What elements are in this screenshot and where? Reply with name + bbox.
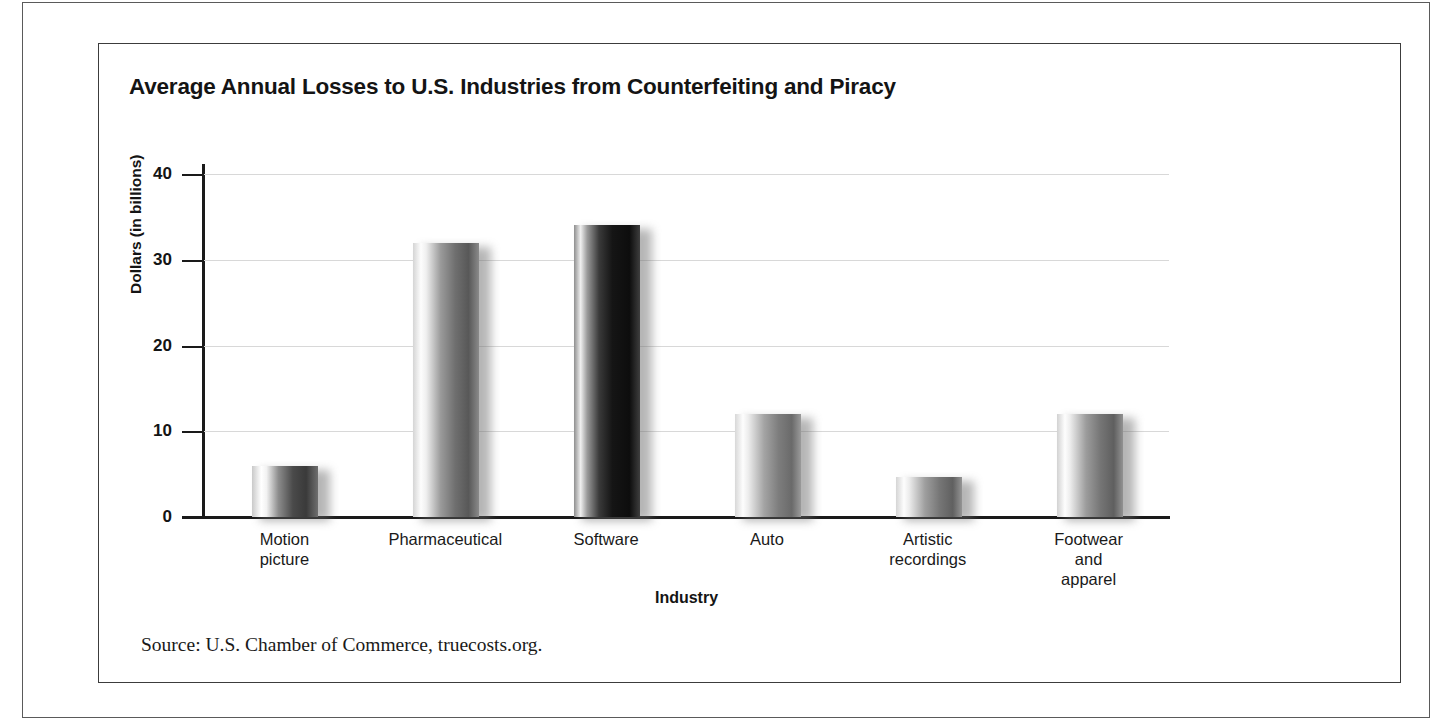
bar[interactable] [1057, 414, 1123, 517]
source-note: Source: U.S. Chamber of Commerce, trueco… [141, 634, 542, 656]
y-tick-mark [182, 260, 202, 262]
chart-title: Average Annual Losses to U.S. Industries… [129, 74, 896, 100]
gridline [204, 431, 1169, 432]
y-tick-label: 10 [153, 421, 172, 441]
bar[interactable] [413, 243, 479, 517]
y-axis-title: Dollars (in billions) [127, 154, 145, 294]
x-tick-label: Auto [750, 529, 784, 549]
x-tick-label: Pharmaceutical [388, 529, 502, 549]
y-tick-mark [182, 346, 202, 348]
y-axis-line [202, 164, 205, 517]
y-tick-mark [182, 431, 202, 433]
y-tick-label: 40 [153, 164, 172, 184]
page-frame: Average Annual Losses to U.S. Industries… [22, 2, 1430, 718]
x-tick-label: Motion picture [260, 529, 310, 569]
gridline [204, 260, 1169, 261]
bar[interactable] [252, 466, 318, 517]
gridline [204, 174, 1169, 175]
y-tick-label: 20 [153, 336, 172, 356]
y-tick-mark [182, 174, 202, 176]
x-tick-label: Software [574, 529, 639, 549]
bar[interactable] [896, 477, 962, 517]
bar[interactable] [735, 414, 801, 517]
x-tick-label: Artistic recordings [889, 529, 966, 569]
gridline [204, 346, 1169, 347]
x-axis-title: Industry [204, 589, 1169, 607]
bar[interactable] [574, 225, 640, 517]
figure-box: Average Annual Losses to U.S. Industries… [98, 43, 1401, 683]
y-tick-mark [182, 517, 202, 519]
x-tick-label: Footwear and apparel [1054, 529, 1123, 589]
y-tick-label: 30 [153, 250, 172, 270]
plot-area: 010203040 Motion picturePharmaceuticalSo… [204, 174, 1169, 517]
y-tick-label: 0 [163, 507, 172, 527]
